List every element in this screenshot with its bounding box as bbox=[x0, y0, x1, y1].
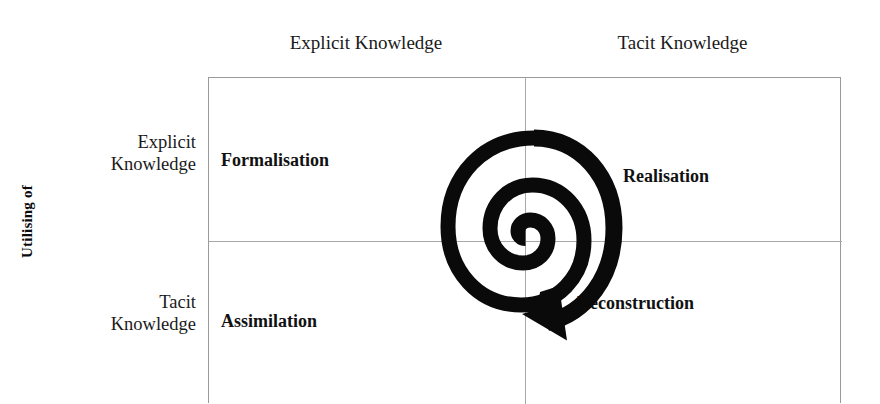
matrix-frame: Formalisation Realisation Assimilation D… bbox=[208, 77, 841, 403]
quadrant-label-realisation: Realisation bbox=[623, 166, 709, 187]
row-label-tacit-line1: Tacit bbox=[68, 292, 196, 314]
row-label-explicit-line2: Knowledge bbox=[68, 154, 196, 176]
quadrant-label-formalisation: Formalisation bbox=[221, 150, 329, 171]
row-label-tacit-knowledge: Tacit Knowledge bbox=[68, 292, 196, 336]
quadrant-label-deconstruction: Deconstruction bbox=[577, 293, 694, 314]
quadrant-label-assimilation: Assimilation bbox=[221, 311, 317, 332]
horizontal-divider-line bbox=[209, 241, 842, 242]
row-label-explicit-line1: Explicit bbox=[68, 132, 196, 154]
column-header-explicit-knowledge: Explicit Knowledge bbox=[208, 32, 524, 54]
row-label-tacit-line2: Knowledge bbox=[68, 314, 196, 336]
column-header-tacit-knowledge: Tacit Knowledge bbox=[524, 32, 841, 54]
row-label-explicit-knowledge: Explicit Knowledge bbox=[68, 132, 196, 176]
vertical-axis-title: Utilising of bbox=[19, 162, 36, 282]
